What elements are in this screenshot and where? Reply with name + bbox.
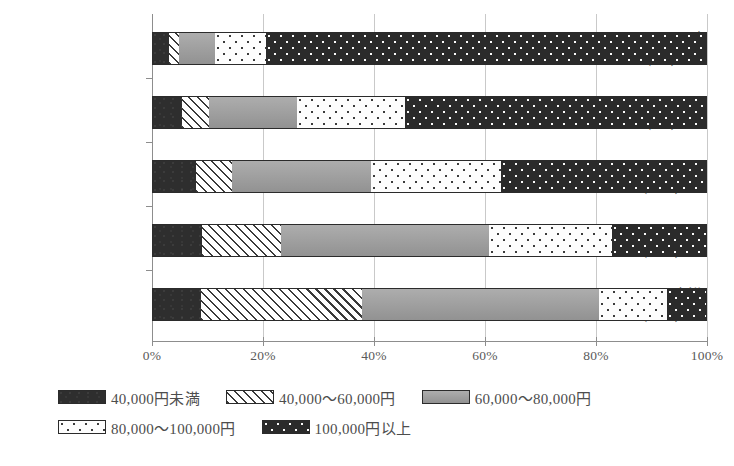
x-tick-label-20: 20% bbox=[233, 348, 293, 364]
legend-item-4: 100,000円以上 bbox=[262, 417, 412, 438]
x-axis-tick bbox=[485, 337, 486, 346]
bar-segment bbox=[405, 96, 707, 129]
bar-segment bbox=[179, 32, 215, 65]
legend-item-1: 40,000～60,000円 bbox=[226, 387, 396, 408]
bar-segment bbox=[169, 32, 179, 65]
legend-label: 40,000～60,000円 bbox=[279, 387, 396, 408]
bar-segment bbox=[232, 160, 371, 193]
bar-segment bbox=[202, 224, 281, 257]
legend-row-2: 80,000～100,000円 100,000円以上 bbox=[58, 412, 718, 442]
bar-segment bbox=[152, 224, 202, 257]
bar-segment bbox=[371, 160, 500, 193]
bar-segment bbox=[266, 32, 707, 65]
bar-segment bbox=[209, 96, 297, 129]
y-axis-tick bbox=[146, 78, 153, 79]
bar-segment bbox=[297, 96, 404, 129]
bar-segment bbox=[196, 160, 232, 193]
legend-item-3: 80,000～100,000円 bbox=[58, 417, 236, 438]
y-axis-tick bbox=[146, 206, 153, 207]
x-axis-tick bbox=[263, 337, 264, 346]
x-tick-label-100: 100% bbox=[677, 348, 734, 364]
bar-segment bbox=[489, 224, 612, 257]
legend-swatch-icon bbox=[262, 420, 310, 434]
bar-segment bbox=[152, 160, 196, 193]
legend-label: 80,000～100,000円 bbox=[111, 417, 236, 438]
bar-segment bbox=[667, 288, 707, 321]
bar-segment bbox=[215, 32, 266, 65]
legend-swatch-icon bbox=[226, 390, 274, 404]
x-tick-label-80: 80% bbox=[566, 348, 626, 364]
stacked-bar-chart: 0% 20% 40% 60% 80% 100% 1000万円以上 (1.3) 7… bbox=[0, 0, 734, 466]
bar-segment bbox=[599, 288, 667, 321]
legend-item-2: 60,000～80,000円 bbox=[422, 387, 592, 408]
bar-segment bbox=[152, 288, 201, 321]
legend-item-0: 40,000円未満 bbox=[58, 387, 200, 408]
y-axis-tick bbox=[146, 270, 153, 271]
chart-legend: 40,000円未満 40,000～60,000円 60,000～80,000円 … bbox=[58, 382, 718, 442]
x-tick-label-0: 0% bbox=[122, 348, 182, 364]
legend-label: 100,000円以上 bbox=[315, 417, 412, 438]
bar-segment bbox=[501, 160, 707, 193]
bar-segment bbox=[201, 288, 363, 321]
x-tick-label-60: 60% bbox=[455, 348, 515, 364]
legend-swatch-icon bbox=[422, 390, 470, 404]
legend-swatch-icon bbox=[58, 390, 106, 404]
x-axis-tick bbox=[707, 337, 708, 346]
bar-segment bbox=[152, 32, 169, 65]
x-axis-tick bbox=[374, 337, 375, 346]
x-axis-tick bbox=[152, 337, 153, 346]
bar-segment bbox=[362, 288, 598, 321]
bar-segment bbox=[182, 96, 209, 129]
x-tick-label-40: 40% bbox=[344, 348, 404, 364]
legend-label: 60,000～80,000円 bbox=[475, 387, 592, 408]
bar-segment bbox=[612, 224, 707, 257]
legend-label: 40,000円未満 bbox=[111, 387, 200, 408]
legend-swatch-icon bbox=[58, 420, 106, 434]
x-axis-tick bbox=[596, 337, 597, 346]
bar-segment bbox=[152, 96, 182, 129]
legend-row-1: 40,000円未満 40,000～60,000円 60,000～80,000円 bbox=[58, 382, 718, 412]
y-axis-tick bbox=[146, 142, 153, 143]
bar-segment bbox=[281, 224, 489, 257]
x-axis-line bbox=[152, 341, 708, 342]
